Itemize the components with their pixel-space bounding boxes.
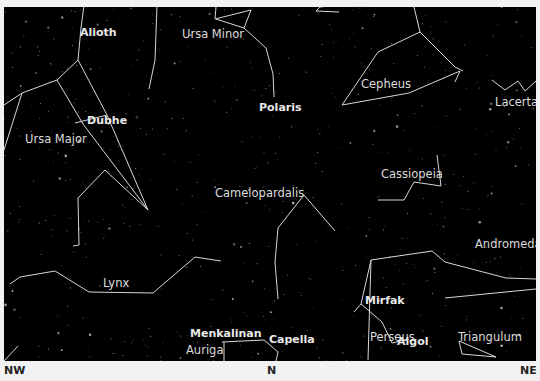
star-label-menkalinan: Menkalinan <box>190 328 262 340</box>
constellation-label-cepheus: Cepheus <box>361 78 411 90</box>
star-label-polaris: Polaris <box>259 102 302 114</box>
direction-nw: NW <box>4 364 25 377</box>
constellation-label-andromeda: Andromeda <box>475 238 536 250</box>
constellation-label-auriga: Auriga <box>186 344 223 356</box>
direction-n: N <box>267 364 276 377</box>
star-label-algol: Algol <box>397 336 429 348</box>
direction-ne: NE <box>520 364 537 377</box>
star-label-mirfak: Mirfak <box>365 295 405 307</box>
constellation-label-triangulum: Triangulum <box>458 331 522 343</box>
star-label-dubhe: Dubhe <box>87 115 127 127</box>
constellation-label-camelopardalis: Camelopardalis <box>215 187 304 199</box>
star-chart: Alioth Dubhe Ursa Major Ursa Minor Polar… <box>4 7 536 361</box>
constellation-label-cassiopeia: Cassiopeia <box>381 168 443 180</box>
constellation-lines <box>4 7 536 361</box>
constellation-label-lynx: Lynx <box>103 277 129 289</box>
constellation-label-ursa-minor: Ursa Minor <box>182 28 244 40</box>
star-label-alioth: Alioth <box>80 27 117 39</box>
star-label-capella: Capella <box>269 334 315 346</box>
constellation-label-ursa-major: Ursa Major <box>25 133 87 145</box>
constellation-label-lacerta: Lacerta <box>495 96 536 108</box>
